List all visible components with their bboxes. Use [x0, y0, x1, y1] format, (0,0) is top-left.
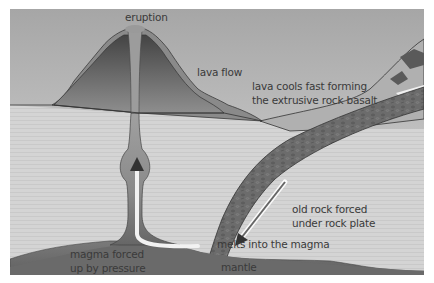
label-melts: melts into the magma [217, 237, 330, 251]
label-old-rock-2: under rock plate [292, 216, 375, 230]
volcano-diagram: eruption lava flow lava cools fast formi… [10, 9, 424, 275]
volcano-cross-section [10, 9, 424, 275]
label-mantle: mantle [221, 260, 257, 274]
label-magma-2: up by pressure [70, 261, 145, 275]
label-lava-cools-2: the extrusive rock basalt [252, 93, 377, 107]
label-magma-1: magma forced [70, 247, 144, 261]
label-old-rock-1: old rock forced [292, 202, 367, 216]
label-eruption: eruption [125, 10, 168, 24]
crater [125, 25, 145, 33]
label-lava-flow: lava flow [197, 65, 242, 79]
label-lava-cools-1: lava cools fast forming [252, 79, 367, 93]
